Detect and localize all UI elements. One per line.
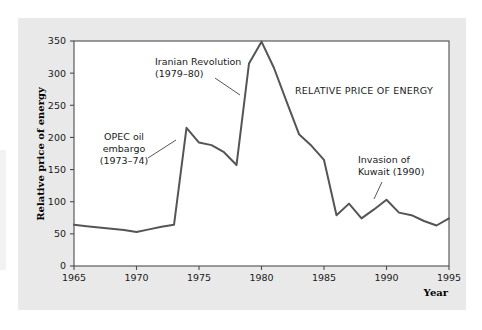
y-axis-ticks [70, 41, 74, 266]
annotation-opec-line-1: OPEC oil [104, 131, 144, 142]
annotation-kuwait-line-2: Kuwait (1990) [358, 166, 424, 177]
y-tick-label: 100 [48, 196, 66, 207]
x-tick-label: 1980 [249, 272, 273, 283]
x-tick-label: 1985 [312, 272, 336, 283]
annotation-iran-line-1: Iranian Revolution [155, 56, 241, 67]
x-tick-label: 1990 [374, 272, 398, 283]
x-axis-ticks [74, 266, 449, 270]
x-tick-label: 1965 [62, 272, 86, 283]
y-tick-label: 250 [48, 100, 66, 111]
line-chart: 050100150200250300350 196519701975198019… [0, 0, 482, 330]
y-tick-label: 50 [54, 228, 66, 239]
figure-container: 050100150200250300350 196519701975198019… [0, 0, 482, 330]
y-axis-tick-labels: 050100150200250300350 [48, 35, 66, 271]
y-axis-title: Relative price of energy [35, 86, 46, 221]
series-label: RELATIVE PRICE OF ENERGY [295, 85, 433, 96]
annotation-kuwait-line-1: Invasion of [358, 154, 411, 165]
y-tick-label: 200 [48, 132, 66, 143]
annotation-opec-line-2: embargo [103, 143, 146, 154]
x-tick-label: 1995 [437, 272, 461, 283]
x-axis-tick-labels: 1965197019751980198519901995 [62, 272, 461, 283]
x-axis-title: Year [423, 287, 449, 298]
y-tick-label: 350 [48, 35, 66, 46]
annotation-opec-line-3: (1973–74) [100, 155, 148, 166]
x-tick-label: 1970 [124, 272, 148, 283]
annotation-iran-line-2: (1979–80) [155, 68, 203, 79]
y-tick-label: 0 [60, 260, 66, 271]
y-tick-label: 150 [48, 164, 66, 175]
x-tick-label: 1975 [187, 272, 211, 283]
y-tick-label: 300 [48, 68, 66, 79]
